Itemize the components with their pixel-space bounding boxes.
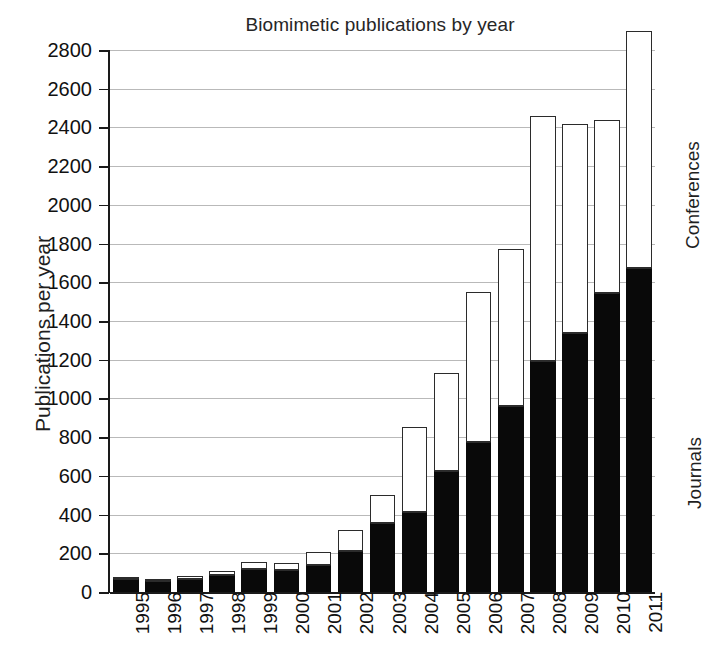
chart-title: Biomimetic publications by year bbox=[100, 14, 660, 36]
y-tick-label: 1600 bbox=[0, 272, 92, 292]
bar-1997 bbox=[177, 576, 203, 592]
bar-2009 bbox=[562, 124, 588, 592]
x-tick-label-2011: 2011 bbox=[646, 592, 665, 656]
x-tick-label-1999: 1999 bbox=[261, 592, 280, 656]
bar-segment-journals bbox=[274, 570, 300, 592]
bar-segment-journals bbox=[498, 406, 524, 592]
bar-segment-conferences bbox=[402, 427, 428, 511]
x-tick-label-1995: 1995 bbox=[133, 592, 152, 656]
y-tick-mark bbox=[99, 515, 109, 517]
y-tick-mark bbox=[99, 360, 109, 362]
bar-segment-journals bbox=[626, 268, 652, 592]
x-tick-label-2009: 2009 bbox=[582, 592, 601, 656]
bar-2008 bbox=[530, 116, 556, 592]
bar-2011 bbox=[626, 31, 652, 592]
bar-segment-conferences bbox=[241, 562, 267, 569]
bar-segment-journals bbox=[338, 551, 364, 592]
bar-segment-conferences bbox=[530, 116, 556, 361]
x-tick-label-2002: 2002 bbox=[357, 592, 376, 656]
y-tick-label: 2400 bbox=[0, 117, 92, 137]
plot-area bbox=[110, 50, 655, 592]
x-tick-label-2004: 2004 bbox=[422, 592, 441, 656]
bar-segment-journals bbox=[402, 512, 428, 592]
bar-2000 bbox=[274, 563, 300, 592]
bar-segment-conferences bbox=[434, 373, 460, 471]
bar-segment-journals bbox=[370, 523, 396, 592]
bar-segment-conferences bbox=[274, 563, 300, 570]
bar-segment-journals bbox=[306, 565, 332, 592]
bar-1999 bbox=[241, 562, 267, 592]
y-tick-label: 2800 bbox=[0, 40, 92, 60]
bar-2002 bbox=[338, 530, 364, 592]
y-tick-label: 1000 bbox=[0, 388, 92, 408]
x-tick-label-2003: 2003 bbox=[390, 592, 409, 656]
y-tick-label: 1200 bbox=[0, 350, 92, 370]
bar-2004 bbox=[402, 427, 428, 592]
y-tick-mark bbox=[99, 127, 109, 129]
bar-2010 bbox=[594, 120, 620, 592]
x-tick-label-1997: 1997 bbox=[197, 592, 216, 656]
bar-segment-conferences bbox=[594, 120, 620, 293]
y-tick-label: 1800 bbox=[0, 234, 92, 254]
x-axis-tick-labels: 1995199619971998199920002001200220032004… bbox=[110, 592, 655, 659]
x-tick-label-2008: 2008 bbox=[550, 592, 569, 656]
bar-segment-conferences bbox=[562, 124, 588, 333]
legend-label-journals: Journals bbox=[684, 393, 706, 553]
y-tick-mark bbox=[99, 244, 109, 246]
y-tick-mark bbox=[99, 398, 109, 400]
bar-2001 bbox=[306, 552, 332, 592]
bar-1996 bbox=[145, 579, 171, 592]
x-tick-label-2001: 2001 bbox=[325, 592, 344, 656]
gridline bbox=[110, 50, 655, 51]
gridline bbox=[110, 89, 655, 90]
y-tick-label: 2200 bbox=[0, 156, 92, 176]
y-tick-mark bbox=[99, 592, 109, 594]
y-tick-mark bbox=[99, 89, 109, 91]
bar-2007 bbox=[498, 249, 524, 592]
bar-1995 bbox=[113, 577, 139, 592]
bar-segment-journals bbox=[113, 579, 139, 592]
legend-label-conferences: Conferences bbox=[682, 95, 704, 295]
bar-segment-journals bbox=[594, 293, 620, 592]
x-tick-label-1998: 1998 bbox=[229, 592, 248, 656]
y-tick-mark bbox=[99, 553, 109, 555]
bar-segment-journals bbox=[466, 442, 492, 592]
y-tick-label: 400 bbox=[0, 505, 92, 525]
y-tick-label: 200 bbox=[0, 543, 92, 563]
y-tick-label: 2600 bbox=[0, 79, 92, 99]
x-tick-label-2005: 2005 bbox=[454, 592, 473, 656]
x-tick-label-2007: 2007 bbox=[518, 592, 537, 656]
bar-segment-journals bbox=[562, 333, 588, 592]
x-tick-label-2000: 2000 bbox=[293, 592, 312, 656]
x-tick-label-1996: 1996 bbox=[165, 592, 184, 656]
bar-segment-journals bbox=[530, 361, 556, 592]
y-tick-label: 0 bbox=[0, 582, 92, 602]
x-tick-label-2010: 2010 bbox=[614, 592, 633, 656]
y-tick-mark bbox=[99, 205, 109, 207]
y-tick-mark bbox=[99, 476, 109, 478]
x-tick-label-2006: 2006 bbox=[486, 592, 505, 656]
chart-container: Biomimetic publications by year Publicat… bbox=[0, 0, 706, 659]
bar-2005 bbox=[434, 373, 460, 592]
y-tick-mark bbox=[99, 321, 109, 323]
bar-segment-journals bbox=[209, 575, 235, 592]
bar-segment-conferences bbox=[498, 249, 524, 406]
bar-2003 bbox=[370, 495, 396, 592]
y-tick-mark bbox=[99, 50, 109, 52]
y-axis-tick-labels: 2800260024002200200018001600140012001000… bbox=[0, 0, 92, 659]
bar-segment-conferences bbox=[306, 552, 332, 565]
y-tick-label: 1400 bbox=[0, 311, 92, 331]
bar-segment-conferences bbox=[626, 31, 652, 268]
bar-segment-journals bbox=[145, 581, 171, 592]
bar-segment-journals bbox=[177, 579, 203, 592]
bar-segment-journals bbox=[434, 471, 460, 592]
y-tick-mark bbox=[99, 166, 109, 168]
bar-segment-conferences bbox=[466, 292, 492, 442]
y-tick-label: 800 bbox=[0, 427, 92, 447]
y-tick-label: 2000 bbox=[0, 195, 92, 215]
y-tick-mark bbox=[99, 282, 109, 284]
bar-segment-journals bbox=[241, 569, 267, 592]
bar-segment-conferences bbox=[370, 495, 396, 523]
y-tick-label: 600 bbox=[0, 466, 92, 486]
bar-2006 bbox=[466, 292, 492, 592]
